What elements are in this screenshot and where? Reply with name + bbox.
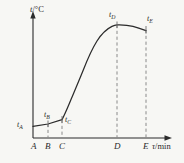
- y-axis-label: t/°C: [30, 5, 44, 14]
- point-label-e: tE: [147, 15, 153, 24]
- point-label-d: tD: [109, 11, 115, 20]
- x-tick-c: C: [59, 142, 65, 151]
- heating-curve-path: [33, 25, 146, 127]
- point-label-e-sub: E: [149, 18, 153, 24]
- x-tick-e: E: [143, 142, 149, 151]
- point-label-c: tC: [65, 116, 71, 125]
- y-axis-label-unit: /°C: [32, 4, 43, 14]
- x-axis-label-unit: /min: [155, 141, 171, 151]
- x-tick-d: D: [114, 142, 121, 151]
- x-tick-b: B: [45, 142, 51, 151]
- x-axis-arrow: [165, 135, 173, 140]
- x-axis-label: τ/min: [152, 142, 171, 151]
- point-label-a: tA: [17, 121, 23, 130]
- x-axis: [33, 135, 172, 140]
- point-label-c-sub: C: [67, 119, 71, 125]
- point-label-a-sub: A: [19, 124, 23, 130]
- x-tick-a: A: [31, 142, 37, 151]
- point-label-b: tB: [44, 111, 50, 120]
- heating-curve-figure: t/°C τ/min A B C D E tA tB tC tD tE: [0, 0, 184, 163]
- curve-point-marks: [48, 22, 146, 128]
- point-label-d-sub: D: [111, 14, 115, 20]
- y-axis: [30, 11, 35, 138]
- point-label-b-sub: B: [46, 114, 50, 120]
- curve-canvas: [0, 0, 184, 163]
